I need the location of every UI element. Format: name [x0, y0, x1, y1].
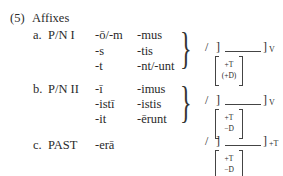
- affix: -mus: [137, 28, 162, 42]
- feature: −D: [216, 124, 242, 133]
- feature-matrix: +T −D: [215, 150, 243, 176]
- section-letter: b.: [33, 82, 42, 96]
- affix: -t: [95, 59, 103, 73]
- rule-right-bracket: ]: [263, 134, 267, 148]
- feature: (+D): [216, 71, 242, 80]
- affix: -erā: [95, 138, 114, 152]
- affix: -istis: [137, 97, 161, 111]
- rule-subscript: V: [269, 98, 275, 107]
- section-label: PAST: [48, 138, 77, 152]
- example-number: (5): [10, 11, 25, 25]
- feature: +T: [216, 154, 242, 163]
- example-title: Affixes: [32, 11, 69, 25]
- rule-left-bracket: ]: [216, 134, 220, 148]
- affix: -istī: [95, 97, 114, 111]
- rule-blank-line: [225, 51, 261, 52]
- section-label: P/N II: [48, 82, 79, 96]
- affix: -ī: [95, 82, 103, 96]
- affix: -tis: [137, 44, 153, 58]
- feature: −D: [216, 165, 242, 174]
- right-brace-icon: }: [180, 81, 192, 125]
- rule-blank-line: [225, 104, 261, 105]
- feature: +T: [216, 113, 242, 122]
- section-label: P/N I: [48, 28, 75, 42]
- affix: -nt/-unt: [137, 59, 175, 73]
- affix: -s: [95, 44, 104, 58]
- right-brace-icon: }: [180, 27, 192, 71]
- feature: +T: [216, 60, 242, 69]
- rule-blank-line: [225, 145, 261, 146]
- rule-subscript: V: [269, 45, 275, 54]
- rule-right-bracket: ]: [263, 40, 267, 54]
- affix: -ērunt: [137, 112, 167, 126]
- rule-slash: /: [205, 40, 208, 54]
- feature-matrix: +T (+D): [215, 56, 243, 86]
- affix: -imus: [137, 82, 165, 96]
- section-letter: a.: [33, 28, 42, 42]
- rule-slash: /: [205, 93, 208, 107]
- rule-right-bracket: ]: [263, 93, 267, 107]
- section-letter: c.: [33, 138, 42, 152]
- rule-left-bracket: ]: [216, 93, 220, 107]
- rule-subscript: +T: [269, 139, 278, 148]
- affix: -it: [95, 112, 106, 126]
- rule-slash: /: [205, 134, 208, 148]
- rule-left-bracket: ]: [216, 40, 220, 54]
- affix: -ō/-m: [95, 28, 123, 42]
